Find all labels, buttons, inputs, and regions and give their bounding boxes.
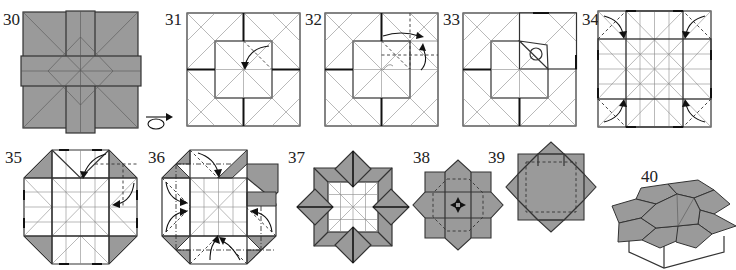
step-number-30: 30 — [3, 11, 20, 28]
step-36-figure — [160, 148, 285, 270]
step-31-figure — [185, 10, 303, 130]
step-number-31: 31 — [165, 11, 182, 28]
step-33-figure — [461, 10, 581, 130]
turn-over-icon — [142, 110, 176, 132]
step-number-35: 35 — [5, 149, 22, 166]
step-38-figure — [413, 160, 503, 260]
step-32-figure — [323, 10, 441, 130]
step-number-33: 33 — [443, 11, 460, 28]
step-number-32: 32 — [305, 11, 322, 28]
step-40-figure — [596, 178, 736, 270]
step-39-figure — [506, 142, 596, 234]
step-37-figure — [290, 150, 415, 270]
step-30-figure — [20, 8, 145, 136]
step-34-figure — [596, 8, 716, 130]
step-35-figure — [22, 148, 144, 270]
